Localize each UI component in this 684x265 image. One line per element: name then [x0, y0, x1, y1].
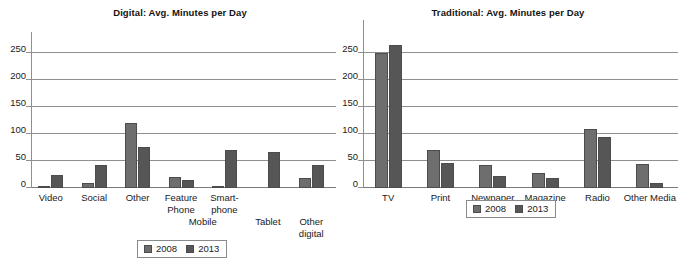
- x-axis-label-feature-phone: FeaturePhone: [165, 192, 198, 215]
- legend-label-2013: 2013: [527, 203, 548, 215]
- x-label-line: Tablet: [255, 216, 280, 227]
- legend-label-2008: 2008: [485, 203, 506, 215]
- x-label-line: Video: [39, 192, 63, 203]
- plot-area-traditional: 050100150200250: [364, 40, 678, 188]
- x-axis-label-other-media: Other Media: [624, 192, 676, 204]
- gridlines-traditional: 050100150200250: [364, 40, 678, 188]
- x-label-line: Print: [431, 192, 451, 203]
- y-tick-mark-250: [26, 52, 31, 53]
- y-tick-mark-150: [26, 106, 31, 107]
- x-axis-label-other: Other: [126, 192, 150, 204]
- legend-item-2008: 2008: [144, 243, 177, 255]
- x-label-line: Other: [126, 192, 150, 203]
- y-tick-mark-50: [358, 160, 363, 161]
- legend-swatch-2008-icon: [473, 205, 481, 213]
- x-label-line: Phone: [167, 204, 194, 215]
- y-tick-label-50: 50: [15, 151, 26, 162]
- x-label-line: Other Media: [624, 192, 676, 203]
- x-label-line: digital: [299, 228, 324, 239]
- gridline-250: [364, 52, 678, 53]
- y-tick-label-100: 100: [342, 124, 358, 135]
- legend-swatch-2013-icon: [515, 205, 523, 213]
- y-tick-label-50: 50: [347, 151, 358, 162]
- y-tick-mark-100: [358, 133, 363, 134]
- x-label-line: Other: [299, 216, 323, 227]
- x-label-line: Smart-: [210, 192, 239, 203]
- gridline-0: [364, 187, 678, 188]
- chart-title-traditional: Traditional: Avg. Minutes per Day: [342, 7, 684, 18]
- chart-title-digital: Digital: Avg. Minutes per Day: [0, 7, 342, 18]
- legend-traditional: 2008 2013: [466, 200, 556, 218]
- y-tick-mark-100: [26, 133, 31, 134]
- y-tick-label-250: 250: [10, 43, 26, 54]
- x-label-line: phone: [211, 204, 237, 215]
- y-tick-label-200: 200: [10, 70, 26, 81]
- legend-label-2013: 2013: [198, 243, 219, 255]
- x-label-line: Radio: [585, 192, 610, 203]
- y-tick-label-250: 250: [342, 43, 358, 54]
- gridline-150: [364, 106, 678, 107]
- legend-item-2013: 2013: [186, 243, 219, 255]
- legend-digital: 2008 2013: [137, 240, 227, 258]
- y-tick-label-200: 200: [342, 70, 358, 81]
- x-axis-label-video: Video: [39, 192, 63, 204]
- y-tick-mark-200: [26, 79, 31, 80]
- gridline-50: [32, 160, 336, 161]
- x-axis-label-tv: TV: [382, 192, 394, 204]
- y-tick-mark-200: [358, 79, 363, 80]
- y-tick-mark-0: [26, 187, 31, 188]
- gridline-150: [32, 106, 336, 107]
- x-label-line: Feature: [165, 192, 198, 203]
- chart-page: Digital: Avg. Minutes per Day 0501001502…: [0, 0, 684, 265]
- legend-swatch-2013-icon: [186, 245, 194, 253]
- x-axis-label-smart-phone: Smart-phone: [210, 192, 239, 215]
- x-axis-label-other-digital: Otherdigital: [299, 216, 324, 239]
- x-axis-group-label-mobile: Mobile: [189, 216, 217, 228]
- y-tick-mark-0: [358, 187, 363, 188]
- y-tick-mark-50: [26, 160, 31, 161]
- legend-label-2008: 2008: [156, 243, 177, 255]
- gridline-250: [32, 52, 336, 53]
- x-axis-label-tablet: Tablet: [255, 216, 280, 228]
- x-axis-label-social: Social: [81, 192, 107, 204]
- panel-traditional: Traditional: Avg. Minutes per Day 050100…: [342, 0, 684, 265]
- x-axis-label-radio: Radio: [585, 192, 610, 204]
- x-axis-label-print: Print: [431, 192, 451, 204]
- plot-area-digital: 050100150200250: [32, 40, 336, 188]
- y-tick-label-100: 100: [10, 124, 26, 135]
- y-tick-mark-250: [358, 52, 363, 53]
- gridline-200: [32, 79, 336, 80]
- y-tick-label-150: 150: [342, 97, 358, 108]
- legend-swatch-2008-icon: [144, 245, 152, 253]
- y-tick-label-150: 150: [10, 97, 26, 108]
- x-label-line: TV: [382, 192, 394, 203]
- x-label-line: Social: [81, 192, 107, 203]
- gridline-100: [364, 133, 678, 134]
- y-tick-mark-150: [358, 106, 363, 107]
- legend-item-2013: 2013: [515, 203, 548, 215]
- gridline-200: [364, 79, 678, 80]
- gridline-50: [364, 160, 678, 161]
- gridline-0: [32, 187, 336, 188]
- legend-item-2008: 2008: [473, 203, 506, 215]
- gridline-100: [32, 133, 336, 134]
- gridlines-digital: 050100150200250: [32, 40, 336, 188]
- panel-digital: Digital: Avg. Minutes per Day 0501001502…: [0, 0, 342, 265]
